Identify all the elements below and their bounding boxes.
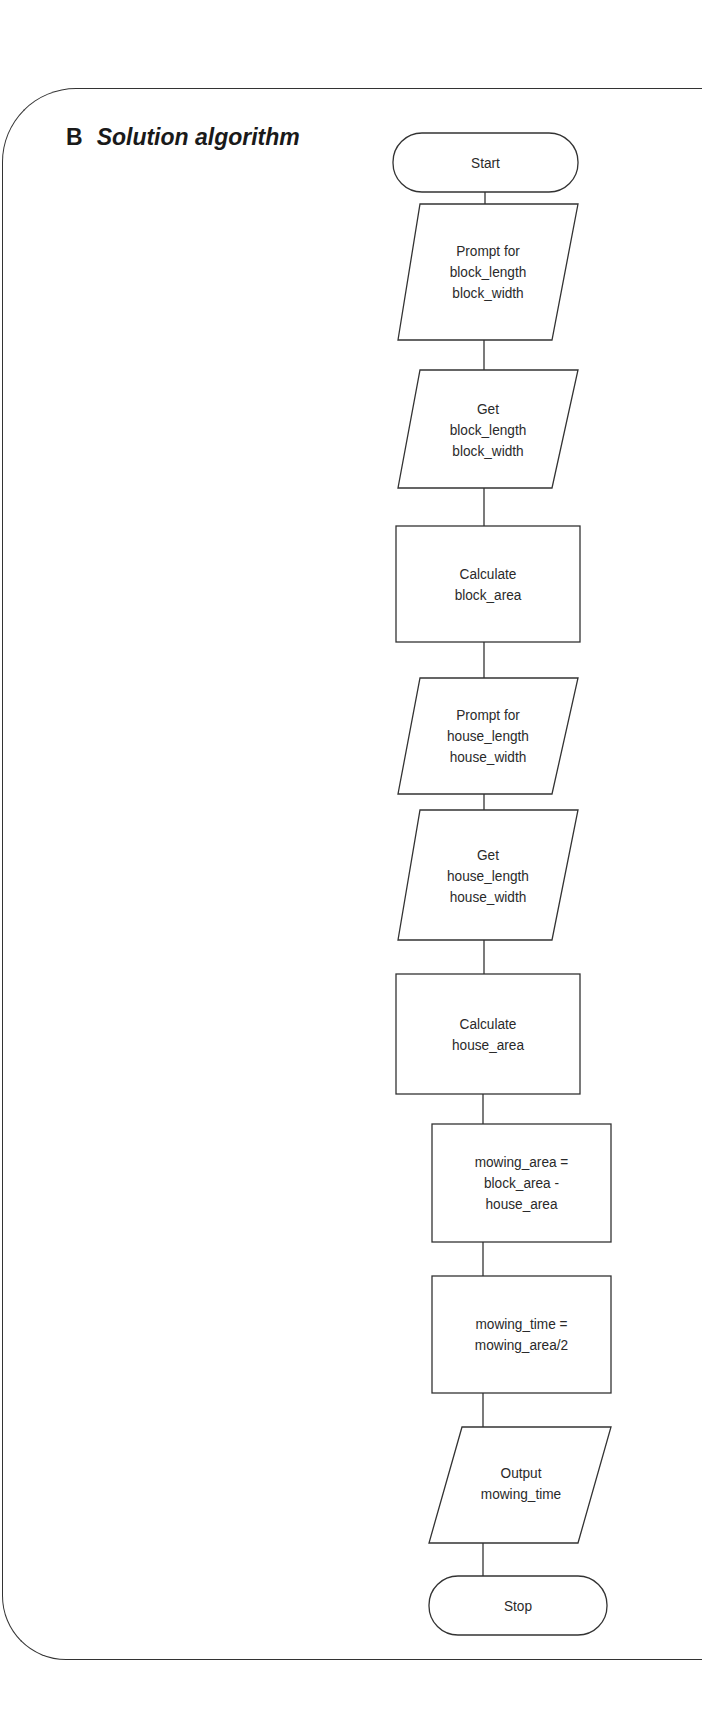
label-line: house_length <box>409 725 567 746</box>
calc-mowing-time-label: mowing_time = mowing_area/2 <box>443 1313 601 1355</box>
label-line: Prompt for <box>409 240 567 261</box>
calc-block-area-label: Calculate block_area <box>407 563 569 605</box>
label-line: house_area <box>407 1034 569 1055</box>
prompt-house-label: Prompt for house_length house_width <box>409 704 567 767</box>
calc-mowing-area-label: mowing_area = block_area - house_area <box>443 1151 601 1214</box>
label-line: mowing_area/2 <box>443 1334 601 1355</box>
label-line: Calculate <box>407 1013 569 1034</box>
label-line: house_length <box>409 865 567 886</box>
get-block-label: Get block_length block_width <box>409 398 567 461</box>
calc-house-area-label: Calculate house_area <box>407 1013 569 1055</box>
label-line: block_length <box>409 261 567 282</box>
label-line: Output <box>443 1462 600 1483</box>
label-line: Prompt for <box>409 704 567 725</box>
label-line: mowing_area = <box>443 1151 601 1172</box>
label-line: mowing_time <box>443 1483 600 1504</box>
label-line: house_area <box>443 1193 601 1214</box>
label-line: Get <box>409 844 567 865</box>
label-line: Start <box>404 152 567 173</box>
label-line: block_width <box>409 440 567 461</box>
label-line: Calculate <box>407 563 569 584</box>
label-line: house_width <box>409 746 567 767</box>
label-line: block_width <box>409 282 567 303</box>
label-line: block_area - <box>443 1172 601 1193</box>
label-line: Get <box>409 398 567 419</box>
label-line: house_width <box>409 886 567 907</box>
prompt-block-label: Prompt for block_length block_width <box>409 240 567 303</box>
get-house-label: Get house_length house_width <box>409 844 567 907</box>
label-line: block_area <box>407 584 569 605</box>
label-line: mowing_time = <box>443 1313 601 1334</box>
start-label: Start <box>404 152 567 173</box>
label-line: Stop <box>440 1595 597 1616</box>
label-line: block_length <box>409 419 567 440</box>
stop-label: Stop <box>440 1595 597 1616</box>
output-label: Output mowing_time <box>443 1462 600 1504</box>
